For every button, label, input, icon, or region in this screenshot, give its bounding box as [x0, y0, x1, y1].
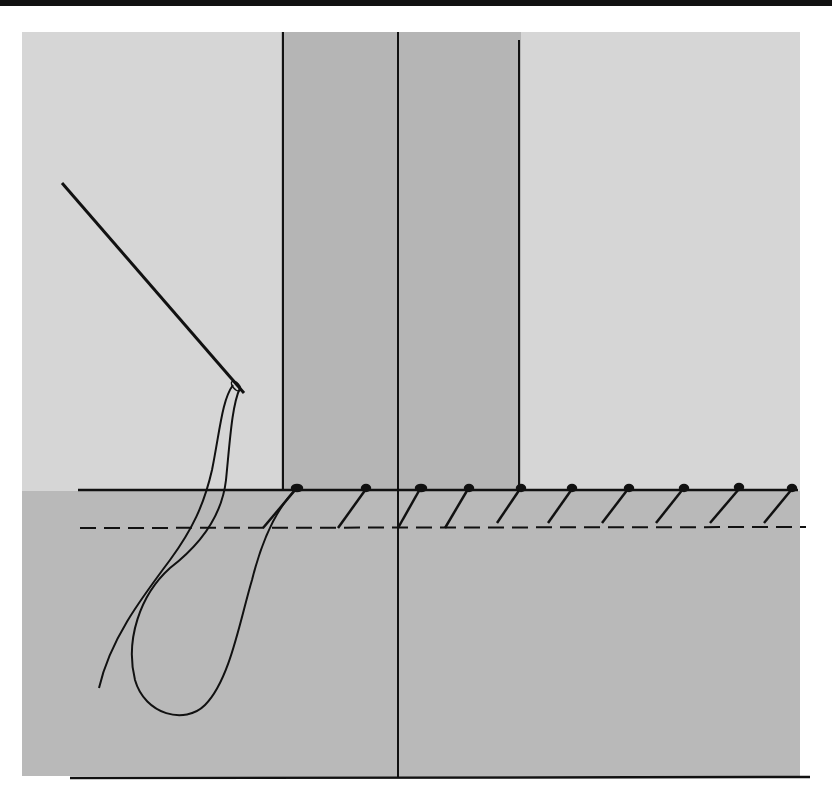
bottom-edge-line [70, 777, 810, 778]
sewing-stitch-diagram [0, 0, 832, 803]
folded-band [281, 32, 521, 492]
lower-fabric-panel [22, 491, 800, 776]
top-border-bar [0, 0, 832, 6]
